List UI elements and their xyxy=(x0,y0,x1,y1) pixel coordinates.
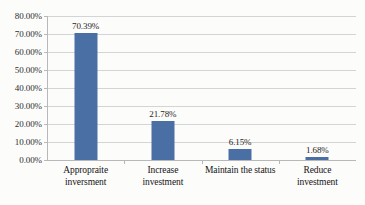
bar[interactable] xyxy=(151,121,174,160)
x-axis-tick-labels: AppropraiteinversmentIncreaseinvestmentM… xyxy=(47,164,356,204)
category-label-line: Increase xyxy=(124,164,201,176)
bar-slot: 70.39% xyxy=(47,16,124,160)
bar[interactable] xyxy=(74,33,97,160)
category-label-line: Maintain the status xyxy=(202,164,279,176)
category-label: Reduceinvestment xyxy=(279,164,356,188)
category-label: Increaseinvestment xyxy=(124,164,201,188)
y-axis-tick-label: 30.00% xyxy=(15,101,42,111)
bar-slot: 1.68% xyxy=(279,16,356,160)
y-axis-tick-label: 70.00% xyxy=(15,29,42,39)
category-label: Maintain the status xyxy=(202,164,279,176)
y-axis-tick-label: 0.00% xyxy=(19,155,42,165)
bar-value-label: 6.15% xyxy=(229,137,252,147)
bar-value-label: 70.39% xyxy=(72,21,99,31)
y-axis-tick-label: 40.00% xyxy=(15,83,42,93)
bar-chart: 0.00%10.00%20.00%30.00%40.00%50.00%60.00… xyxy=(0,0,365,205)
bar-series: 70.39%21.78%6.15%1.68% xyxy=(47,16,356,160)
bar-value-label: 21.78% xyxy=(149,109,176,119)
bar[interactable] xyxy=(229,149,252,160)
category-label-line: Reduce xyxy=(279,164,356,176)
category-label-line: investment xyxy=(124,176,201,188)
bar-slot: 21.78% xyxy=(124,16,201,160)
bar-slot: 6.15% xyxy=(202,16,279,160)
y-axis-tick-label: 20.00% xyxy=(15,119,42,129)
bar[interactable] xyxy=(306,157,329,160)
category-label-line: Appropraite xyxy=(47,164,124,176)
bar-value-label: 1.68% xyxy=(306,145,329,155)
category-label-line: inversment xyxy=(47,176,124,188)
category-label: Appropraiteinversment xyxy=(47,164,124,188)
y-axis-tick-label: 50.00% xyxy=(15,65,42,75)
y-axis-tick-label: 60.00% xyxy=(15,47,42,57)
y-axis-tick-label: 80.00% xyxy=(15,11,42,21)
y-axis-tick-label: 10.00% xyxy=(15,137,42,147)
category-label-line: investment xyxy=(279,176,356,188)
